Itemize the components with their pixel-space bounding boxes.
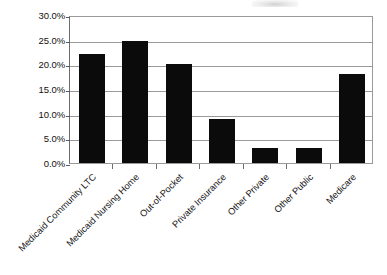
bar [122, 41, 148, 163]
bar [209, 119, 235, 163]
bar [79, 54, 105, 163]
plot-area [69, 16, 373, 164]
y-axis-tick-label: 0.0% [9, 158, 65, 169]
bar-chart: 0.0%5.0%10.0%15.0%20.0%25.0%30.0% Medica… [0, 0, 387, 275]
x-axis-tick-mark [112, 164, 113, 169]
bar [296, 148, 322, 163]
x-axis-tick-mark [199, 164, 200, 169]
x-axis-tick-mark [243, 164, 244, 169]
y-axis-tick-label: 20.0% [9, 59, 65, 70]
x-axis-tick-mark [330, 164, 331, 169]
y-axis-tick-label: 30.0% [9, 10, 65, 21]
y-axis-tick-label: 15.0% [9, 84, 65, 95]
y-axis-tick-label: 10.0% [9, 109, 65, 120]
y-axis-tick-mark [66, 165, 70, 166]
bar [252, 148, 278, 163]
x-axis-tick-mark [286, 164, 287, 169]
scan-artifact [252, 0, 298, 7]
bars-group [70, 17, 372, 163]
y-axis-tick-label: 25.0% [9, 35, 65, 46]
x-axis-tick-mark [156, 164, 157, 169]
y-axis-tick-label: 5.0% [9, 133, 65, 144]
bar [166, 64, 192, 163]
bar [339, 74, 365, 163]
